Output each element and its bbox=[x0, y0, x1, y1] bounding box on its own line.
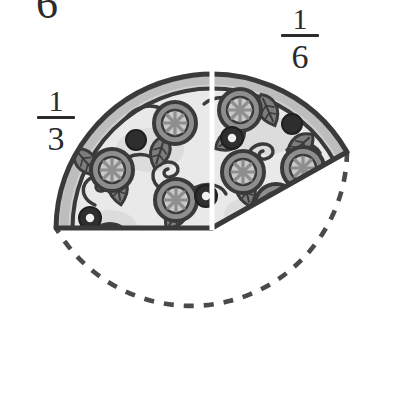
fraction-label-one-third: 1 3 bbox=[30, 88, 82, 156]
pizza-shaded-half bbox=[56, 74, 360, 376]
fraction-denominator: 6 bbox=[274, 40, 326, 74]
pizza-fraction-diagram bbox=[0, 0, 399, 406]
fraction-numerator: 1 bbox=[274, 6, 326, 32]
fraction-label-one-sixth: 1 6 bbox=[274, 6, 326, 74]
fraction-numerator: 1 bbox=[30, 88, 82, 114]
fraction-denominator: 3 bbox=[30, 122, 82, 156]
figure-stage: 6 bbox=[0, 0, 399, 406]
